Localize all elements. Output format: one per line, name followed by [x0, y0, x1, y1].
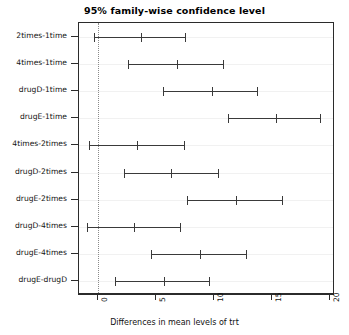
x-axis-tick — [97, 294, 98, 300]
interval-lower-cap — [128, 60, 129, 69]
y-axis-tick-label: drugE-drugD — [18, 276, 67, 284]
interval-upper-cap — [180, 223, 181, 232]
interval-bar — [151, 254, 246, 255]
interval-upper-cap — [185, 33, 186, 42]
y-axis-tick — [71, 226, 78, 227]
y-axis-tick-label: drugD-4times — [15, 222, 67, 230]
interval-upper-cap — [257, 87, 258, 96]
interval-mean-marker — [164, 277, 165, 286]
interval-upper-cap — [282, 196, 283, 205]
confidence-interval — [115, 281, 210, 282]
tukey-hsd-plot: 95% family-wise confidence level 2times-… — [0, 0, 349, 335]
interval-lower-cap — [187, 196, 188, 205]
interval-mean-marker — [177, 60, 178, 69]
interval-lower-cap — [228, 114, 229, 123]
interval-lower-cap — [89, 141, 90, 150]
y-axis-tick — [71, 280, 78, 281]
y-axis-tick-label: drugD-1time — [19, 86, 67, 94]
interval-lower-cap — [115, 277, 116, 286]
x-axis-tick — [329, 294, 330, 300]
x-axis-tick — [213, 294, 214, 300]
x-axis-tick-label: 0 — [100, 297, 109, 302]
interval-upper-cap — [218, 169, 219, 178]
page-title: 95% family-wise confidence level — [0, 5, 349, 16]
y-axis-tick-label: drugE-1time — [20, 113, 67, 121]
x-axis-title: Differences in mean levels of trt — [0, 318, 349, 327]
interval-upper-cap — [209, 277, 210, 286]
y-axis-tick — [71, 90, 78, 91]
interval-lower-cap — [151, 250, 152, 259]
interval-mean-marker — [171, 169, 172, 178]
interval-bar — [187, 200, 282, 201]
y-axis-tick-label: 2times-1time — [16, 32, 67, 40]
interval-mean-marker — [141, 33, 142, 42]
confidence-interval — [94, 37, 186, 38]
y-axis-tick-label: drugE-4times — [16, 249, 67, 257]
interval-mean-marker — [276, 114, 277, 123]
interval-upper-cap — [223, 60, 224, 69]
y-axis-tick — [71, 117, 78, 118]
x-axis-tick-label: 10 — [216, 292, 225, 302]
interval-lower-cap — [94, 33, 95, 42]
interval-mean-marker — [137, 141, 138, 150]
x-axis-tick-label: 20 — [332, 292, 341, 302]
interval-bar — [163, 91, 258, 92]
confidence-interval — [124, 173, 218, 174]
y-axis-tick — [71, 172, 78, 173]
interval-upper-cap — [184, 141, 185, 150]
confidence-interval — [151, 254, 246, 255]
confidence-interval — [163, 91, 258, 92]
y-axis-tick — [71, 253, 78, 254]
confidence-interval — [89, 145, 184, 146]
y-axis-tick-label: 4times-1time — [16, 59, 67, 67]
interval-mean-marker — [236, 196, 237, 205]
y-axis-tick — [71, 63, 78, 64]
interval-bar — [228, 118, 321, 119]
y-axis-tick-label: drugE-2times — [16, 195, 67, 203]
plot-area — [78, 22, 334, 294]
y-axis-tick-label: 4times-2times — [12, 140, 67, 148]
interval-mean-marker — [212, 87, 213, 96]
x-axis-tick — [155, 294, 156, 300]
confidence-interval — [187, 200, 282, 201]
y-axis-tick — [71, 144, 78, 145]
confidence-interval — [228, 118, 321, 119]
interval-upper-cap — [320, 114, 321, 123]
x-axis-tick-label: 15 — [274, 292, 283, 302]
interval-mean-marker — [200, 250, 201, 259]
y-axis-tick — [71, 199, 78, 200]
interval-upper-cap — [246, 250, 247, 259]
interval-lower-cap — [87, 223, 88, 232]
x-axis-line — [78, 294, 334, 295]
y-axis-tick — [71, 36, 78, 37]
x-axis-tick-label: 5 — [158, 297, 167, 302]
y-axis-tick-label: drugD-2times — [15, 168, 67, 176]
interval-bar — [115, 281, 210, 282]
confidence-interval — [87, 227, 181, 228]
interval-lower-cap — [163, 87, 164, 96]
x-axis-tick — [271, 294, 272, 300]
interval-mean-marker — [134, 223, 135, 232]
zero-reference-line — [98, 23, 99, 293]
interval-lower-cap — [124, 169, 125, 178]
confidence-interval — [128, 64, 225, 65]
